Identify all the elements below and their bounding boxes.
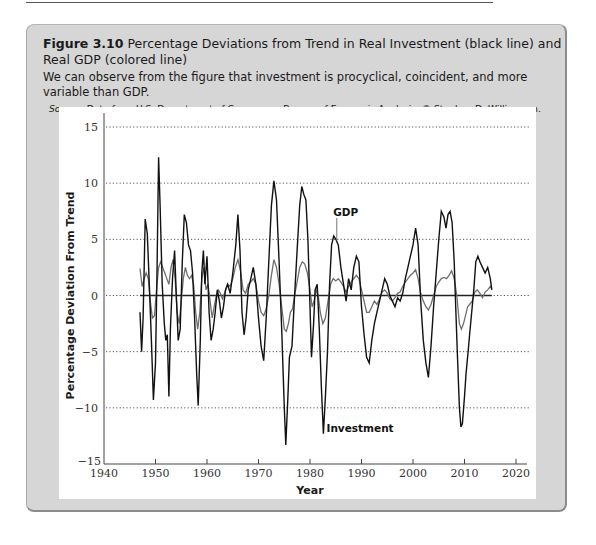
y-tick-label: 15 [84,121,98,134]
x-axis-title: Year [295,484,324,497]
x-tick-label: 2000 [399,467,427,480]
top-rule [26,2,493,3]
x-tick-label: 1980 [296,467,324,480]
y-tick-label: 0 [91,290,98,303]
investment-series-line [140,157,492,445]
x-tick-label: 1990 [348,467,376,480]
gdp-label: GDP [333,206,358,218]
x-axis-ticks: 194019501960197019801990200020102020 [90,459,530,480]
x-tick-label: 2020 [502,467,530,480]
y-axis-title: Percentage Deviation From Trend [64,192,77,400]
investment-label: Investment [326,422,393,434]
plot-panel: −15−10−5051015 1940195019601970198019902… [59,107,536,499]
figure-number: Figure 3.10 [43,36,124,51]
x-tick-label: 2010 [451,467,479,480]
x-tick-label: 1970 [245,467,273,480]
figure-title: Figure 3.10 Percentage Deviations from T… [43,36,563,68]
y-tick-label: −10 [75,402,98,415]
x-tick-label: 1940 [90,467,118,480]
y-tick-label: −5 [82,346,98,359]
figure-caption: Figure 3.10 Percentage Deviations from T… [43,36,563,115]
y-tick-label: 10 [84,177,98,190]
x-tick-label: 1960 [193,467,221,480]
y-tick-label: 5 [91,233,98,246]
line-chart: −15−10−5051015 1940195019601970198019902… [59,107,536,499]
y-axis-ticks: −15−10−5051015 [75,121,101,468]
x-tick-label: 1950 [142,467,170,480]
figure-description: We can observe from the figure that inve… [43,70,563,100]
